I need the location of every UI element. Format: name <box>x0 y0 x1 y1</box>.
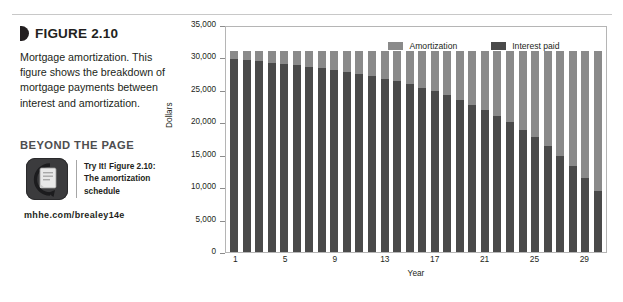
x-tick-label: 25 <box>530 254 539 264</box>
bar <box>506 51 514 252</box>
bar <box>305 51 313 252</box>
bar-segment-interest <box>355 74 363 252</box>
bar-segment-interest <box>569 166 577 252</box>
bar-segment-amortization <box>381 51 389 79</box>
bar <box>230 51 238 252</box>
bar-segment-amortization <box>594 51 602 191</box>
bar-segment-amortization <box>569 51 577 167</box>
bar-segment-amortization <box>305 51 313 67</box>
bar-segment-amortization <box>318 51 326 68</box>
bar-segment-interest <box>293 65 301 252</box>
figure-label: FIGURE 2.10 <box>35 26 118 41</box>
bar-segment-amortization <box>519 51 527 130</box>
bar-segment-interest <box>556 156 564 252</box>
x-tick-label: 5 <box>283 254 288 264</box>
bar-segment-interest <box>230 59 238 252</box>
bar-segment-amortization <box>581 51 589 178</box>
bar <box>481 51 489 252</box>
bar-segment-amortization <box>544 51 552 146</box>
bar-segment-interest <box>581 178 589 252</box>
chart: Dollars 05,00010,00015,00020,00025,00030… <box>168 20 610 285</box>
bar <box>468 51 476 252</box>
bar-segment-amortization <box>556 51 564 156</box>
figure-marker-icon <box>20 26 29 41</box>
bar <box>381 51 389 252</box>
bar-segment-amortization <box>268 51 276 63</box>
bar-segment-interest <box>393 81 401 252</box>
bar-segment-interest <box>431 91 439 252</box>
bar-segment-amortization <box>293 51 301 65</box>
page-top-rule <box>12 14 612 15</box>
bar-segment-interest <box>406 84 414 252</box>
y-tick-label: 30,000 <box>191 52 216 61</box>
document-arrow-icon[interactable] <box>26 158 68 200</box>
bar-segment-interest <box>368 76 376 252</box>
bar <box>581 51 589 252</box>
bar <box>368 51 376 252</box>
bar <box>393 51 401 252</box>
bar <box>293 51 301 252</box>
y-tick-label: 10,000 <box>191 182 216 191</box>
bar <box>493 51 501 252</box>
bar-segment-interest <box>255 61 263 252</box>
y-axis-title: Dollars <box>165 103 174 128</box>
figure-description: Mortgage amortization. This figure shows… <box>20 50 170 111</box>
bar-segment-amortization <box>243 51 251 60</box>
x-tick-label: 21 <box>480 254 489 264</box>
bar-segment-amortization <box>280 51 288 64</box>
x-tick-label: 13 <box>380 254 389 264</box>
bar-segment-interest <box>381 79 389 252</box>
bar-segment-interest <box>506 122 514 252</box>
bar-segment-interest <box>468 105 476 252</box>
beyond-the-page-divider <box>76 160 77 198</box>
bar-segment-amortization <box>431 51 439 91</box>
bar <box>343 51 351 252</box>
bar-segment-amortization <box>393 51 401 81</box>
bar <box>531 51 539 252</box>
bar-segment-interest <box>330 70 338 252</box>
bar-segment-amortization <box>468 51 476 105</box>
bar <box>355 51 363 252</box>
bar-segment-amortization <box>456 51 464 100</box>
bar-segment-interest <box>305 67 313 252</box>
beyond-the-page-url[interactable]: mhhe.com/brealey14e <box>24 210 125 220</box>
bar-segment-amortization <box>418 51 426 88</box>
bar <box>418 51 426 252</box>
y-tick-label: 35,000 <box>191 20 216 29</box>
bar-segment-interest <box>343 72 351 252</box>
bar <box>406 51 414 252</box>
bar <box>519 51 527 252</box>
x-tick-label: 9 <box>333 254 338 264</box>
bar <box>280 51 288 252</box>
bar <box>243 51 251 252</box>
x-tick-label: 1 <box>233 254 238 264</box>
plot-area: AmortizationInterest paid <box>225 26 607 253</box>
bar-segment-interest <box>481 110 489 252</box>
bar-segment-amortization <box>330 51 338 70</box>
bar <box>443 51 451 252</box>
bar <box>255 51 263 252</box>
y-tick-label: 20,000 <box>191 117 216 126</box>
beyond-the-page-block[interactable]: Try It! Figure 2.10: The amortization sc… <box>26 158 164 200</box>
bar <box>556 51 564 252</box>
bar-segment-interest <box>493 116 501 252</box>
bar-segment-interest <box>456 100 464 252</box>
bar <box>268 51 276 252</box>
y-tick-label: 0 <box>211 247 216 256</box>
bar-segment-amortization <box>343 51 351 72</box>
bar-segment-amortization <box>406 51 414 84</box>
bar <box>456 51 464 252</box>
bar-segment-interest <box>268 63 276 252</box>
y-tick-label: 25,000 <box>191 85 216 94</box>
bar <box>318 51 326 252</box>
figure-heading: FIGURE 2.10 <box>20 26 172 41</box>
beyond-the-page-text: Try It! Figure 2.10: The amortization sc… <box>84 158 164 197</box>
y-tick-label: 15,000 <box>191 150 216 159</box>
bar <box>431 51 439 252</box>
bar-segment-amortization <box>481 51 489 110</box>
bar-segment-interest <box>418 88 426 252</box>
figure-page: FIGURE 2.10 Mortgage amortization. This … <box>0 0 623 302</box>
bar-segment-amortization <box>493 51 501 116</box>
x-tick-label: 29 <box>580 254 589 264</box>
bar-segment-interest <box>531 137 539 252</box>
